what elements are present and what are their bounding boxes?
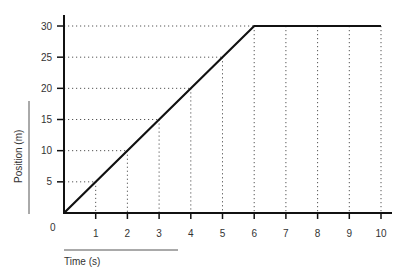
y-tick-label: 25: [41, 52, 53, 63]
y-tick-label: 20: [41, 83, 53, 94]
y-axis-title: Position (m): [13, 130, 24, 183]
x-axis-title: Time (s): [64, 256, 100, 267]
grid-lines: [64, 26, 381, 213]
x-tick-label: 5: [220, 228, 226, 239]
x-tick-label: 9: [347, 228, 353, 239]
y-tick-label: 30: [41, 21, 53, 32]
position-time-chart: 1234567891051015202530 0 Position (m) Ti…: [0, 0, 407, 280]
x-tick-label: 7: [283, 228, 289, 239]
y-tick-label: 15: [41, 114, 53, 125]
x-tick-label: 4: [188, 228, 194, 239]
x-tick-label: 8: [315, 228, 321, 239]
y-tick-label: 10: [41, 145, 53, 156]
origin-label: 0: [50, 222, 56, 233]
x-tick-label: 1: [93, 228, 99, 239]
x-tick-label: 6: [251, 228, 257, 239]
y-tick-label: 5: [46, 176, 52, 187]
x-tick-label: 3: [156, 228, 162, 239]
position-line: [64, 26, 381, 213]
tick-labels: 1234567891051015202530: [41, 21, 387, 239]
data-series: [64, 26, 381, 213]
x-tick-label: 2: [125, 228, 131, 239]
axes: [57, 15, 392, 219]
x-tick-label: 10: [375, 228, 387, 239]
